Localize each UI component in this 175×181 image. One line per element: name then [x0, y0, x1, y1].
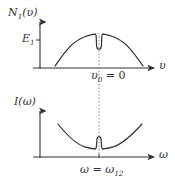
top-plot-center-annotation-value: 0: [119, 69, 126, 82]
bottom-plot-x-axis-label: ω: [159, 149, 168, 160]
top-plot-x-axis-label: υ: [159, 60, 166, 71]
top-plot-curve-right: [103, 34, 143, 66]
top-plot-y-tick-label: E1: [22, 33, 35, 46]
bottom-plot-center-annotation-var: ω: [80, 163, 89, 176]
top-plot-x-axis-label-text: υ: [159, 59, 166, 72]
top-plot-y-axis-label: N1(υ): [8, 7, 38, 20]
bottom-plot-y-axis-label: I(ω): [14, 96, 36, 107]
top-plot-y-axis-label-var: N: [8, 6, 18, 19]
bottom-plot-center-annotation-value: ω: [105, 163, 114, 176]
figure-container: N1(υ) E1 υ υ0 = 0 I(ω) ω ω = ω12: [0, 0, 175, 181]
bottom-plot-x-axis-label-text: ω: [159, 148, 168, 161]
top-plot-group: [33, 22, 154, 69]
top-plot-center-annotation: υ0 = 0: [91, 70, 126, 83]
top-plot-center-annotation-eq: =: [102, 69, 118, 82]
figure-canvas: [0, 0, 175, 181]
top-plot-y-tick-label-sub: 1: [30, 38, 35, 47]
bottom-plot-y-axis-label-arg: (ω): [18, 95, 36, 108]
top-plot-curve-left: [55, 34, 95, 66]
bottom-plot-curve-right: [103, 124, 142, 149]
top-plot-y-tick-label-var: E: [22, 32, 30, 45]
bottom-plot-group: [33, 111, 154, 158]
top-plot-center-annotation-var: υ: [91, 69, 98, 82]
bottom-plot-center-annotation: ω = ω12: [80, 164, 123, 177]
bottom-plot-center-annotation-eq: =: [89, 163, 105, 176]
bottom-plot-center-annotation-value-sub: 12: [114, 169, 123, 178]
top-plot-y-axis-label-arg: (υ): [22, 6, 37, 19]
bottom-plot-curve-left: [58, 124, 95, 149]
